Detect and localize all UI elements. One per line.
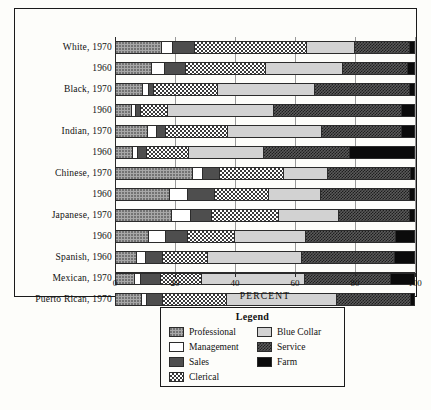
stacked-bar [115,230,415,243]
bar-row: White, 1970 [115,40,415,57]
stacked-bar [115,146,415,159]
x-axis-line [115,273,415,274]
bar-segment-blue-collar [278,210,337,221]
bar-segment-blue-collar [188,147,263,158]
x-tick [175,273,176,277]
bar-segment-management [134,273,141,284]
gridline-100 [415,37,416,273]
bar-segment-professional [116,42,161,53]
bar-row-label: 1960 [0,229,112,244]
chart-page: White, 19701960Black, 19701960Indian, 19… [0,0,431,410]
bar-segment-farm [349,147,414,158]
stacked-bar [115,41,415,54]
bar-segment-clerical [140,105,167,116]
bar-row-label: Indian, 1970 [0,124,112,139]
bar-segment-blue-collar [217,84,314,95]
stacked-bar [115,104,415,117]
bar-segment-professional [116,168,192,179]
bar-segment-management [161,42,172,53]
legend-label: Blue Collar [277,327,321,337]
legend-label: Farm [277,357,297,367]
bar-segment-professional [116,84,142,95]
legend-item: Blue Collar [257,325,345,338]
bar-segment-sales [172,42,193,53]
legend-item: Farm [257,355,345,368]
bar-segment-farm [409,189,414,200]
bar-row: Indian, 1970 [115,124,415,141]
bar-segment-professional [116,210,171,221]
x-axis-title: PERCENT [115,291,415,301]
bar-segment-clerical [214,189,268,200]
bar-segment-clerical [194,42,306,53]
bar-row: 1960 [115,229,415,246]
legend-item: Professional [169,325,257,338]
bar-segment-service [342,63,407,74]
bar-segment-service [301,252,394,263]
bar-segment-farm [410,168,414,179]
bar-segment-blue-collar [227,126,321,137]
bar-segment-professional [116,231,148,242]
bar-row-label: 1960 [0,103,112,118]
bar-segment-service [338,210,409,221]
legend-title: Legend [161,311,344,322]
legend-swatch-farm [257,357,272,367]
bar-segment-farm [409,84,414,95]
legend-swatch-blue-collar [257,327,272,337]
bar-segment-management [147,126,157,137]
x-tick-label: 100 [400,278,430,288]
legend-label: Clerical [189,372,219,382]
legend-items: ProfessionalBlue CollarManagementService… [169,325,344,383]
legend-label: Management [189,342,239,352]
bar-row-label: Puerto Rican, 1970 [0,292,112,307]
x-tick [415,273,416,277]
legend-label: Service [277,342,306,352]
bar-row-label: 1960 [0,145,112,160]
bar-segment-management [148,231,165,242]
legend-item: Clerical [169,370,257,383]
legend-item: Management [169,340,257,353]
legend: Legend ProfessionalBlue CollarManagement… [160,307,345,387]
bar-row: 1960 [115,145,415,162]
bar-segment-management [192,168,202,179]
bar-segment-sales [145,252,162,263]
legend-swatch-professional [169,327,184,337]
bar-segment-farm [394,252,414,263]
x-tick-label: 80 [340,278,370,288]
bar-segment-professional [116,147,132,158]
bar-row-label: Black, 1970 [0,82,112,97]
bar-row: 1960 [115,103,415,120]
bar-segment-blue-collar [234,231,305,242]
x-tick [115,273,116,277]
stacked-bar [115,62,415,75]
stacked-bar [115,83,415,96]
bar-row-label: 1960 [0,61,112,76]
bar-segment-clerical [187,231,235,242]
stacked-bar [115,167,415,180]
stacked-bar [115,251,415,264]
bar-segment-service [354,42,409,53]
bar-row-label: Chinese, 1970 [0,166,112,181]
bar-segment-blue-collar [207,252,301,263]
bar-segment-sales [187,189,214,200]
bar-segment-sales [137,147,145,158]
bar-segment-management [171,210,190,221]
bar-segment-professional [116,105,131,116]
x-tick [235,273,236,277]
stacked-bar [115,188,415,201]
bar-row-label: 1960 [0,187,112,202]
legend-swatch-clerical [169,372,184,382]
bar-segment-sales [165,231,186,242]
bar-segment-service [305,231,395,242]
bar-segment-service [320,189,409,200]
bar-row-label: Spanish, 1960 [0,250,112,265]
bar-segment-clerical [165,126,227,137]
bar-row: Japanese, 1970 [115,208,415,225]
bar-row-label: Japanese, 1970 [0,208,112,223]
legend-label: Professional [189,327,236,337]
bar-segment-blue-collar [265,63,342,74]
bar-segment-blue-collar [268,189,320,200]
bar-segment-professional [116,252,136,263]
bar-row: Chinese, 1970 [115,166,415,183]
bar-segment-blue-collar [306,42,354,53]
bar-segment-clerical [162,252,207,263]
